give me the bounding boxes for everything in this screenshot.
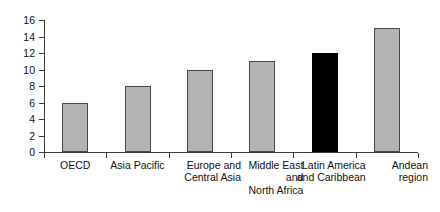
x-tick-mark xyxy=(106,153,107,158)
x-tick-mark xyxy=(231,153,232,158)
bar xyxy=(62,103,88,153)
y-tick-label: 10 xyxy=(23,64,35,75)
y-tick-label: 4 xyxy=(29,114,35,125)
bar-chart: 0246810121416 OECDAsia PacificEurope and… xyxy=(0,0,440,212)
x-axis-label: Andean region xyxy=(346,159,428,184)
x-tick-mark xyxy=(293,153,294,158)
x-tick-mark xyxy=(418,153,419,158)
y-tick-label: 6 xyxy=(29,97,35,108)
bar xyxy=(125,86,151,152)
y-tick-label: 0 xyxy=(29,147,35,158)
y-tick-label: 8 xyxy=(29,81,35,92)
plot-area xyxy=(44,20,418,152)
x-tick-mark xyxy=(44,153,45,158)
bar xyxy=(312,53,338,152)
y-tick-label: 14 xyxy=(23,31,35,42)
bar xyxy=(374,28,400,152)
y-tick-label: 12 xyxy=(23,48,35,59)
x-tick-mark xyxy=(169,153,170,158)
x-tick-mark xyxy=(356,153,357,158)
y-tick-label: 16 xyxy=(23,15,35,26)
bar xyxy=(249,61,275,152)
y-tick-label: 2 xyxy=(29,130,35,141)
bar xyxy=(187,70,213,152)
